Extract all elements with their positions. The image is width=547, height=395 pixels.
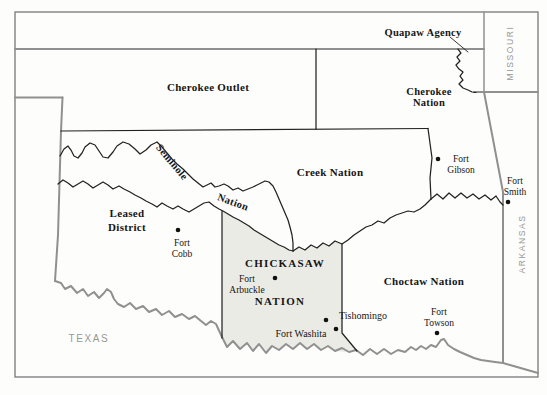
arkansas-label: ARKANSAS	[518, 214, 527, 273]
leased-district-label: Leased District	[108, 206, 146, 235]
fort-gibson-line2: Gibson	[447, 164, 474, 175]
chickasaw-label: CHICKASAW	[245, 258, 325, 270]
quapaw-agency-label: Quapaw Agency	[384, 27, 461, 38]
leased-line1: Leased	[108, 206, 146, 220]
fort-smith-label: Fort Smith	[504, 176, 527, 197]
missouri-label: MISSOURI	[506, 26, 515, 81]
leased-line2: District	[108, 220, 146, 234]
texas-label: TEXAS	[69, 334, 110, 345]
creek-east-border	[428, 129, 432, 200]
fort-arbuckle-line2: Arbuckle	[229, 284, 264, 295]
cherokee-nation-line2: Nation	[406, 97, 451, 108]
fort-washita-dot	[334, 327, 339, 332]
fort-arbuckle-line1: Fort	[229, 274, 264, 285]
chickasaw-choctaw-border	[342, 244, 357, 351]
fort-towson-label: Fort Towson	[424, 307, 454, 328]
fort-cobb-line2: Cobb	[172, 248, 193, 259]
creek-nation-label: Creek Nation	[297, 167, 364, 179]
canadian-river-choctaw-border	[293, 199, 431, 251]
fort-smith-line2: Smith	[504, 186, 527, 197]
cherokee-nation-line1: Cherokee	[406, 86, 451, 97]
fort-towson-line1: Fort	[424, 307, 454, 318]
fort-smith-dot	[506, 200, 511, 205]
arkansas-west-border	[484, 92, 503, 362]
fort-arbuckle-label: Fort Arbuckle	[229, 274, 264, 295]
map-canvas: Quapaw Agency Cherokee Outlet Cherokee N…	[0, 0, 547, 395]
choctaw-nation-label: Choctaw Nation	[384, 276, 464, 288]
fort-towson-dot	[435, 331, 440, 336]
arkansas-river	[431, 193, 503, 205]
fort-gibson-label: Fort Gibson	[447, 154, 474, 175]
quapaw-west-squiggle	[456, 49, 476, 93]
fort-gibson-line1: Fort	[447, 154, 474, 165]
tishomingo-dot	[324, 318, 329, 323]
cherokee-outlet-south-border	[61, 129, 428, 132]
fort-cobb-dot	[176, 228, 181, 233]
chickasaw-nation-label: NATION	[255, 296, 305, 308]
tishomingo-label: Tishomingo	[339, 311, 387, 322]
fort-towson-line2: Towson	[424, 317, 454, 328]
texas-east-border	[55, 98, 63, 282]
fort-cobb-line1: Fort	[172, 238, 193, 249]
cherokee-outlet-label: Cherokee Outlet	[167, 82, 249, 94]
fort-smith-line1: Fort	[504, 176, 527, 187]
fort-gibson-dot	[436, 157, 441, 162]
fort-cobb-label: Fort Cobb	[172, 238, 193, 259]
fort-washita-label: Fort Washita	[276, 329, 327, 340]
fort-arbuckle-dot	[273, 276, 278, 281]
cherokee-nation-label: Cherokee Nation	[406, 86, 451, 108]
